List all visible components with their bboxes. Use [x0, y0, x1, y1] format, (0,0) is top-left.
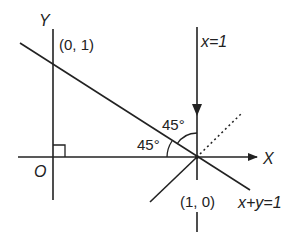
y-intercept-label: (0, 1): [59, 36, 94, 53]
line-x-plus-y-equals-1: [20, 43, 250, 190]
vertical-line-label: x=1: [200, 33, 227, 50]
dotted-45-degree-line: [200, 112, 243, 154]
diagonal-line-label: x+y=1: [237, 194, 282, 211]
y-axis-label: Y: [39, 12, 51, 29]
upper-angle-label: 45°: [162, 116, 185, 133]
lower-angle-label: 45°: [137, 136, 160, 153]
upper-angle-arc: [177, 133, 197, 144]
x-intercept-label: (1, 0): [180, 193, 215, 210]
right-angle-marker: [53, 145, 65, 157]
coordinate-diagram: Y (0, 1) O x=1 45° 45° X (1, 0) x+y=1: [0, 0, 305, 243]
lower-angle-arc: [167, 141, 172, 157]
downward-arrow-icon: [192, 104, 202, 116]
x-axis-label: X: [262, 150, 275, 167]
origin-label: O: [34, 163, 46, 180]
intersection-point: [195, 155, 199, 159]
